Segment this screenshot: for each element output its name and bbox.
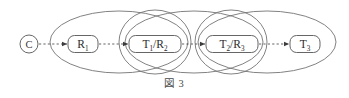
node-t1-r2-sub2: 2 xyxy=(164,45,168,53)
figure-caption-number: 3 xyxy=(178,78,184,89)
node-t1-r2-main: T xyxy=(142,38,149,50)
node-r1: R1 xyxy=(68,36,98,54)
node-r1-sub: 1 xyxy=(85,45,89,53)
figure-caption: 図3 xyxy=(0,75,349,90)
node-t3-main: T xyxy=(300,38,307,50)
node-t2-r3: T2/R3 xyxy=(206,36,258,54)
figure-caption-label: 図 xyxy=(164,78,175,89)
node-t1-r2: T1/R2 xyxy=(129,36,181,54)
node-t2-r3-main: T xyxy=(219,38,226,50)
figure-container: C R1 T1/R2 T2/R3 T3 xyxy=(0,0,349,98)
start-node: C xyxy=(20,35,38,53)
node-t2-r3-sub2: 3 xyxy=(241,45,245,53)
node-t3: T3 xyxy=(290,36,320,54)
node-t3-sub: 3 xyxy=(307,45,311,53)
start-node-label: C xyxy=(25,39,32,50)
